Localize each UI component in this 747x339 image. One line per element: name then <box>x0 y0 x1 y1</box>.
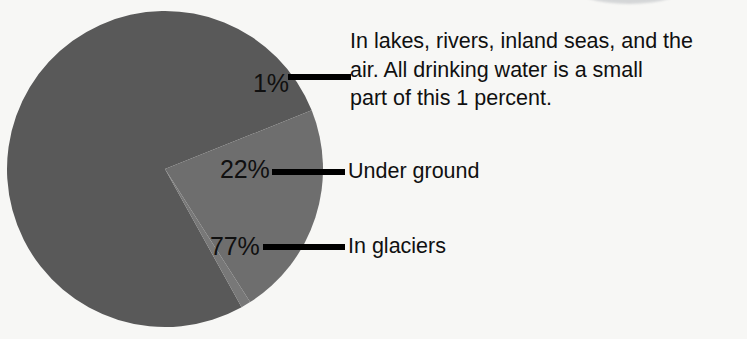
leader-line-22-percent <box>272 169 345 175</box>
slice-value-label-22-percent: 22% <box>220 157 269 182</box>
slice-value-label-77-percent: 77% <box>210 234 259 259</box>
callout-text-in-lakes: In lakes, rivers, inland seas, and the a… <box>350 27 742 113</box>
slice-value-label-1-percent: 1% <box>253 71 289 96</box>
leader-line-77-percent <box>263 244 345 250</box>
leader-line-1-percent <box>288 74 351 80</box>
pie-chart-figure: 1% 22% 77% In lakes, rivers, inland seas… <box>0 0 747 339</box>
callout-text-in-glaciers: In glaciers <box>348 232 446 261</box>
callout-text-under-ground: Under ground <box>348 157 479 186</box>
